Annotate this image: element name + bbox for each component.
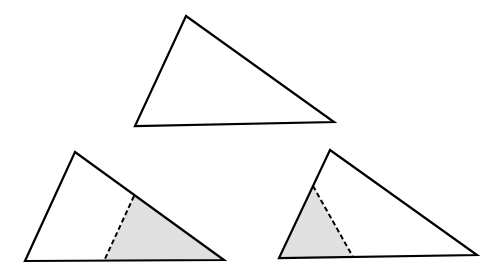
shaded-region bbox=[104, 196, 224, 261]
triangle-outline bbox=[135, 16, 334, 126]
shaded-region bbox=[279, 186, 353, 258]
triangle-bottom-right bbox=[279, 150, 477, 258]
triangle-diagram bbox=[0, 0, 501, 272]
triangle-top bbox=[135, 16, 334, 126]
triangle-bottom-left bbox=[25, 152, 224, 261]
